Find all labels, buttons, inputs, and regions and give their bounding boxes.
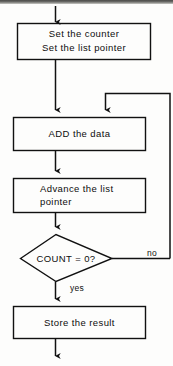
edge-label-yes: yes: [70, 283, 84, 293]
node-box-store-result: [14, 307, 146, 339]
node-diamond-count-decision: [21, 235, 113, 282]
node-box-advance-pointer: [14, 179, 146, 213]
node-box-set-counter: [18, 24, 151, 60]
edge-feedback-loop: [106, 94, 171, 259]
node-box-add-data: [14, 118, 146, 151]
edge-label-no: no: [147, 248, 157, 258]
flowchart-connectors: [0, 0, 173, 366]
flowchart-diagram: Set the counter Set the list pointer ADD…: [0, 0, 173, 366]
